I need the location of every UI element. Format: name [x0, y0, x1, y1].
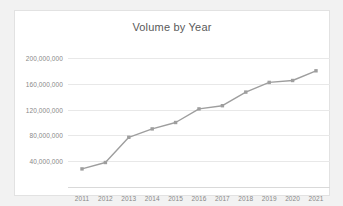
chart-container[interactable]: Volume by Year 40,000,00080,000,000120,0…	[14, 10, 330, 196]
chart-title: Volume by Year	[15, 21, 329, 33]
x-axis-tick-label: 2014	[145, 195, 160, 202]
plot-area: 40,000,00080,000,000120,000,000160,000,0…	[68, 45, 330, 187]
x-axis-tick-label: 2019	[262, 195, 277, 202]
data-point-marker[interactable]	[104, 161, 107, 164]
y-axis-tick-label: 80,000,000	[29, 132, 63, 139]
y-axis-tick-label: 200,000,000	[26, 54, 63, 61]
x-axis-tick-label: 2013	[121, 195, 136, 202]
y-axis-tick-label: 120,000,000	[26, 106, 63, 113]
data-point-marker[interactable]	[221, 104, 224, 107]
line-series-layer	[68, 45, 330, 187]
data-point-marker[interactable]	[244, 90, 247, 93]
x-axis-tick-label: 2018	[238, 195, 253, 202]
x-axis-tick-label: 2020	[285, 195, 300, 202]
x-axis-tick-label: 2011	[75, 195, 89, 202]
x-axis-tick-label: 2017	[215, 195, 230, 202]
x-axis-tick-label: 2015	[168, 195, 183, 202]
data-point-marker[interactable]	[151, 127, 154, 130]
data-point-marker[interactable]	[80, 167, 83, 170]
data-point-marker[interactable]	[291, 79, 294, 82]
x-axis-line	[68, 187, 330, 188]
x-axis-tick-label: 2021	[309, 195, 324, 202]
data-point-marker[interactable]	[174, 121, 177, 124]
x-axis-tick-label: 2016	[192, 195, 207, 202]
x-axis-tick-label: 2012	[98, 195, 113, 202]
y-axis-tick-label: 40,000,000	[29, 158, 63, 165]
data-point-marker[interactable]	[127, 136, 130, 139]
series-line	[82, 71, 316, 169]
data-point-marker[interactable]	[314, 69, 317, 72]
data-point-marker[interactable]	[268, 81, 271, 84]
data-point-marker[interactable]	[197, 107, 200, 110]
y-axis-tick-label: 160,000,000	[26, 80, 63, 87]
